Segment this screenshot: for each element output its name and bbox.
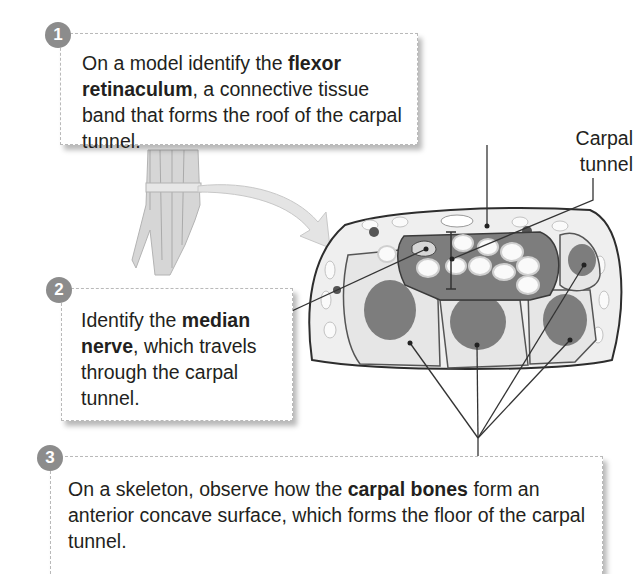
step-3-badge: 3 bbox=[37, 445, 63, 471]
step-3-text: On a skeleton, observe how the bbox=[68, 478, 348, 500]
term-carpal-bones: carpal bones bbox=[348, 478, 468, 500]
step-3-box: On a skeleton, observe how the carpal bo… bbox=[50, 456, 603, 574]
hand-icon bbox=[132, 150, 201, 275]
step-2-text: Identify the bbox=[81, 309, 182, 331]
carpal-tunnel-label-line1: Carpal bbox=[555, 125, 633, 151]
step-1-badge: 1 bbox=[45, 22, 71, 48]
step-1-text: On a model identify the bbox=[82, 52, 288, 74]
arrow-icon bbox=[198, 185, 330, 248]
carpal-tunnel-label-line2: tunnel bbox=[555, 151, 633, 177]
carpal-tunnel-label: Carpal tunnel bbox=[555, 125, 633, 177]
step-2-badge: 2 bbox=[46, 277, 72, 303]
step-2-box: Identify the median nerve, which travels… bbox=[61, 288, 293, 421]
step-1-box: On a model identify the flexor retinacul… bbox=[60, 33, 418, 145]
